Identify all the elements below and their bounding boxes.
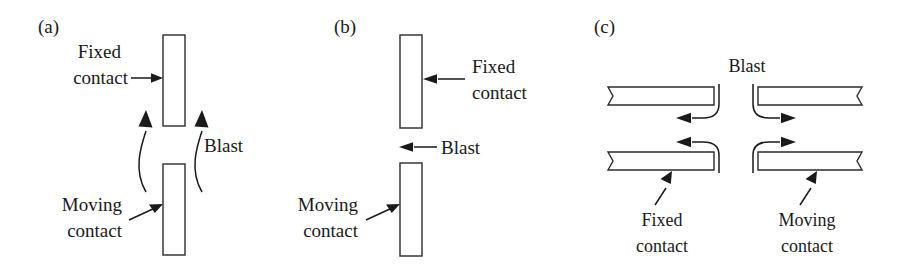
panel-a-blast-flow-right xyxy=(195,131,202,192)
panel-a: (a) Fixed contact Moving contact Blast xyxy=(38,16,244,255)
figure-container: (a) Fixed contact Moving contact Blast xyxy=(0,0,903,269)
panel-b-moving-label-line1: Moving xyxy=(298,194,359,215)
panel-a-fixed-arrowhead xyxy=(151,73,163,83)
panel-c-fixed-label-line2: contact xyxy=(636,236,688,256)
panel-b-moving-arrowhead xyxy=(386,204,400,213)
panel-b-fixed-label-line1: Fixed xyxy=(472,56,516,77)
panel-c-fixed-label-line1: Fixed xyxy=(641,210,682,230)
panel-c-lower-left-contact-bar xyxy=(608,152,714,170)
panel-c-blast-arrowhead-upper-left xyxy=(676,113,691,123)
panel-b-moving-label-line2: contact xyxy=(303,220,359,241)
panel-a-moving-label-line2: contact xyxy=(67,220,123,241)
panel-c-blast-label: Blast xyxy=(728,56,765,76)
panel-c-blast-arrowhead-lower-right xyxy=(781,137,796,147)
panel-a-moving-arrowhead xyxy=(149,204,163,213)
panel-a-moving-label-line1: Moving xyxy=(62,194,123,215)
panel-a-fixed-contact-bar xyxy=(163,35,185,126)
panel-a-label: (a) xyxy=(38,16,59,38)
panel-c-fixed-leader xyxy=(655,188,666,205)
panel-b: (b) Fixed contact Blast Moving contact xyxy=(298,16,528,256)
panel-a-blast-flow-left xyxy=(139,131,146,192)
panel-b-fixed-arrowhead xyxy=(423,74,437,84)
panel-a-fixed-label-line1: Fixed xyxy=(78,41,122,62)
panel-c: (c) Blast Fixed co xyxy=(594,16,862,256)
panel-c-blast-arrowhead-upper-right xyxy=(781,113,796,123)
panel-c-moving-label-line2: contact xyxy=(781,236,833,256)
panel-a-moving-leader xyxy=(129,208,155,220)
panel-b-moving-leader xyxy=(366,208,392,220)
panel-a-blast-arrowhead-left xyxy=(139,110,153,128)
panel-c-moving-label-line1: Moving xyxy=(778,210,835,230)
panel-a-blast-arrowhead-right xyxy=(195,110,209,128)
panel-b-label: (b) xyxy=(334,16,356,38)
panel-b-moving-contact-bar xyxy=(400,163,422,256)
panel-a-blast-label: Blast xyxy=(204,135,244,156)
panel-b-blast-label: Blast xyxy=(441,137,481,158)
panel-c-moving-leader xyxy=(800,188,811,205)
panel-a-fixed-label-line2: contact xyxy=(73,67,129,88)
panel-c-lower-right-contact-bar xyxy=(758,152,862,170)
panel-c-blast-arrowhead-lower-left xyxy=(676,137,691,147)
blast-configuration-diagram: (a) Fixed contact Moving contact Blast xyxy=(0,0,903,269)
panel-a-moving-contact-bar xyxy=(163,164,185,255)
panel-b-fixed-contact-bar xyxy=(400,35,422,128)
panel-c-upper-right-contact-bar xyxy=(758,87,862,105)
panel-b-fixed-label-line2: contact xyxy=(472,82,528,103)
panel-b-blast-arrowhead xyxy=(399,142,413,152)
panel-c-label: (c) xyxy=(594,16,615,38)
panel-c-fixed-arrowhead xyxy=(661,171,673,184)
panel-c-moving-arrowhead xyxy=(806,171,818,184)
panel-c-upper-left-contact-bar xyxy=(608,87,714,105)
